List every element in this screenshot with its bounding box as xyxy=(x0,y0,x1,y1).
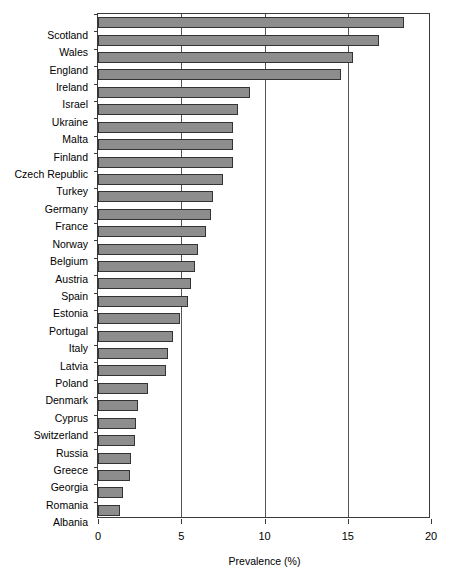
y-axis-tick xyxy=(94,118,98,119)
y-axis-category-label: Cyprus xyxy=(0,413,88,424)
bar[interactable] xyxy=(98,52,353,63)
bar[interactable] xyxy=(98,209,211,220)
y-axis-category-label: Austria xyxy=(0,274,88,285)
bar-row xyxy=(98,101,429,118)
y-axis-category-label: Georgia xyxy=(0,482,88,493)
x-axis-tick-label: 10 xyxy=(258,530,270,542)
bar-row xyxy=(98,449,429,466)
bar-row xyxy=(98,432,429,449)
bar[interactable] xyxy=(98,157,233,168)
bar-row xyxy=(98,380,429,397)
bar[interactable] xyxy=(98,365,166,376)
bar[interactable] xyxy=(98,453,131,464)
bar-row xyxy=(98,188,429,205)
y-axis-tick xyxy=(94,310,98,311)
y-axis-tick xyxy=(94,223,98,224)
bar-row xyxy=(98,66,429,83)
bar[interactable] xyxy=(98,17,404,28)
bar[interactable] xyxy=(98,331,173,342)
y-axis-tick xyxy=(94,101,98,102)
y-axis-category-label: Malta xyxy=(0,134,88,145)
y-axis-category-label: Belgium xyxy=(0,256,88,267)
y-axis-category-label: Spain xyxy=(0,291,88,302)
y-axis-tick xyxy=(94,188,98,189)
y-axis-tick xyxy=(94,14,98,15)
y-axis-category-label: Denmark xyxy=(0,395,88,406)
y-axis-category-label: Estonia xyxy=(0,308,88,319)
bar-row xyxy=(98,49,429,66)
bar-row xyxy=(98,240,429,257)
bar-row xyxy=(98,31,429,48)
y-axis-category-label: Greece xyxy=(0,465,88,476)
bar-row xyxy=(98,310,429,327)
y-axis-tick xyxy=(94,397,98,398)
x-axis-tick xyxy=(348,519,349,524)
bar[interactable] xyxy=(98,191,213,202)
bar[interactable] xyxy=(98,244,198,255)
y-axis-category-label: Turkey xyxy=(0,186,88,197)
y-axis-tick xyxy=(94,258,98,259)
x-axis-title: Prevalence (%) xyxy=(98,555,431,567)
x-axis-tick-label: 5 xyxy=(178,530,184,542)
bar[interactable] xyxy=(98,313,180,324)
bar[interactable] xyxy=(98,435,135,446)
bar[interactable] xyxy=(98,139,233,150)
bar-row xyxy=(98,258,429,275)
bar-row xyxy=(98,118,429,135)
y-axis-tick xyxy=(94,467,98,468)
bar[interactable] xyxy=(98,35,379,46)
y-axis-tick xyxy=(94,484,98,485)
bar[interactable] xyxy=(98,87,250,98)
y-axis-category-label: Finland xyxy=(0,152,88,163)
bar-row xyxy=(98,415,429,432)
bar[interactable] xyxy=(98,487,123,498)
bar-row xyxy=(98,84,429,101)
bar-row xyxy=(98,14,429,31)
bar[interactable] xyxy=(98,226,206,237)
x-axis-tick xyxy=(431,519,432,524)
bar[interactable] xyxy=(98,348,168,359)
y-axis-tick xyxy=(94,206,98,207)
bar[interactable] xyxy=(98,400,138,411)
x-axis-tick-label: 20 xyxy=(425,530,437,542)
bar-row xyxy=(98,223,429,240)
bar-row xyxy=(98,397,429,414)
y-axis-category-label: Wales xyxy=(0,47,88,58)
y-axis-tick xyxy=(94,432,98,433)
y-axis-tick xyxy=(94,380,98,381)
bar-row xyxy=(98,136,429,153)
y-axis-category-label: Ireland xyxy=(0,82,88,93)
bar[interactable] xyxy=(98,505,120,516)
y-axis-category-label: Scotland xyxy=(0,30,88,41)
y-axis-tick xyxy=(94,415,98,416)
y-axis-category-label: Israel xyxy=(0,99,88,110)
y-axis-category-label: Norway xyxy=(0,239,88,250)
y-axis-category-label: Portugal xyxy=(0,326,88,337)
bar[interactable] xyxy=(98,383,148,394)
plot-area: 05101520 ScotlandWalesEnglandIrelandIsra… xyxy=(97,13,430,518)
bar-row xyxy=(98,502,429,519)
y-axis-tick xyxy=(94,449,98,450)
y-axis-category-label: Ukraine xyxy=(0,117,88,128)
bar-row xyxy=(98,484,429,501)
bar[interactable] xyxy=(98,418,136,429)
bar[interactable] xyxy=(98,470,130,481)
x-axis-tick xyxy=(265,519,266,524)
bar[interactable] xyxy=(98,278,191,289)
y-axis-category-label: Poland xyxy=(0,378,88,389)
bar[interactable] xyxy=(98,174,223,185)
bar[interactable] xyxy=(98,69,341,80)
bar[interactable] xyxy=(98,122,233,133)
y-axis-tick xyxy=(94,171,98,172)
bar-row xyxy=(98,206,429,223)
y-axis-tick xyxy=(94,293,98,294)
bar[interactable] xyxy=(98,296,188,307)
bar-row xyxy=(98,327,429,344)
bar[interactable] xyxy=(98,104,238,115)
y-axis-tick xyxy=(94,345,98,346)
bar-row xyxy=(98,171,429,188)
bar[interactable] xyxy=(98,261,195,272)
y-axis-category-label: Romania xyxy=(0,500,88,511)
bar-row xyxy=(98,345,429,362)
y-axis-tick xyxy=(94,84,98,85)
